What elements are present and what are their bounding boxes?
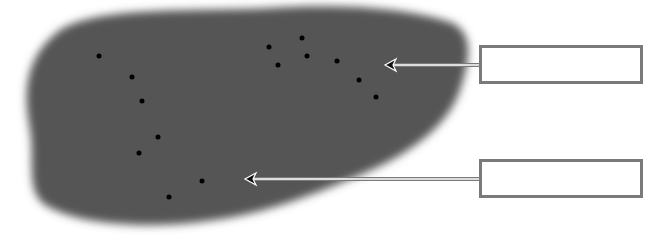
dot-marker [374, 95, 379, 100]
dot-marker [97, 54, 102, 59]
label-text-1 [482, 48, 640, 81]
label-box-1[interactable] [479, 45, 643, 84]
dot-marker [357, 78, 362, 83]
dot-marker [335, 59, 340, 64]
dot-marker [156, 135, 161, 140]
dot-marker [276, 63, 281, 68]
dot-marker [140, 99, 145, 104]
dot-marker [200, 179, 205, 184]
dot-marker [130, 75, 135, 80]
diagram-svg [0, 0, 663, 237]
diagram-canvas [0, 0, 663, 237]
label-text-2 [482, 162, 640, 195]
dot-marker [167, 195, 172, 200]
dot-marker [137, 151, 142, 156]
dot-marker [300, 36, 305, 41]
dark-blob-region [27, 6, 469, 225]
dot-marker [305, 54, 310, 59]
label-box-2[interactable] [479, 159, 643, 198]
dot-marker [267, 45, 272, 50]
